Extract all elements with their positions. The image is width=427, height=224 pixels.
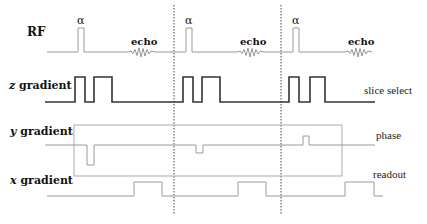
y-gradient-label: y gradient: [9, 125, 74, 138]
x-gradient-text: gradient: [17, 174, 74, 187]
alpha-label-2: α: [185, 14, 193, 27]
echo-2: [237, 48, 264, 57]
alpha-label-1: α: [77, 14, 85, 27]
echo-label-3: echo: [348, 36, 375, 47]
echo-label-2: echo: [240, 36, 267, 47]
x-gradient-waveform: [47, 182, 383, 196]
y-gradient-text: gradient: [16, 125, 73, 138]
readout-label: readout: [373, 168, 406, 180]
echo-label-1: echo: [131, 36, 158, 47]
slice-select-label: slice select: [364, 84, 412, 96]
z-gradient-waveform: [45, 77, 375, 102]
echo-3: [345, 48, 372, 57]
z-gradient-text: gradient: [15, 79, 72, 92]
rf-waveform: [47, 28, 345, 52]
phase-label: phase: [376, 129, 401, 141]
alpha-label-3: α: [292, 14, 300, 27]
y-gradient-frame: [74, 125, 342, 176]
pulse-sequence-diagram: RF z gradient y gradient x gradient slic…: [0, 0, 427, 224]
echo-1: [128, 48, 155, 57]
y-gradient-waveform: [45, 136, 375, 165]
rf-label: RF: [27, 25, 46, 39]
x-gradient-label: x gradient: [9, 174, 74, 187]
z-gradient-label: z gradient: [8, 79, 73, 92]
